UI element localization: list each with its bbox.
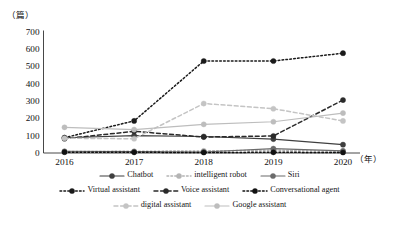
x-axis-tick-labels: 20162017201820192020 — [55, 157, 352, 167]
legend-label: Conversational agent — [270, 186, 339, 194]
data-point — [201, 58, 206, 63]
legend-label: digital assistant — [141, 201, 192, 209]
y-axis-tick-labels: 0100200300400500600700 — [26, 27, 40, 159]
data-point — [201, 134, 206, 139]
legend-label: Voice assistant — [181, 186, 229, 194]
chart-figure: （篇） （年） 0100200300400500600700 201620172… — [0, 0, 399, 227]
legend-swatch-icon — [242, 186, 268, 196]
legend-swatch-icon — [260, 171, 286, 181]
legend-item-digital-assistant[interactable]: digital assistant — [113, 201, 192, 211]
data-point — [271, 150, 276, 155]
legend-swatch-icon — [166, 171, 192, 181]
data-point — [340, 51, 345, 56]
data-point — [62, 125, 67, 130]
data-point — [340, 118, 345, 123]
data-point — [132, 150, 137, 155]
data-point — [271, 119, 276, 124]
y-tick-0: 0 — [35, 148, 40, 158]
data-point — [271, 106, 276, 111]
data-point — [340, 97, 345, 102]
data-point — [62, 136, 67, 141]
data-point — [340, 150, 345, 155]
y-tick-300: 300 — [26, 96, 40, 106]
legend-label: Virtual assistant — [87, 186, 140, 194]
x-tick-2018: 2018 — [195, 157, 214, 167]
x-tick-2016: 2016 — [55, 157, 74, 167]
data-point — [201, 122, 206, 127]
legend-swatch-icon — [113, 201, 139, 211]
legend-label: Siri — [288, 171, 300, 179]
data-point — [132, 136, 137, 141]
legend-item-google-assistant[interactable]: Google assistant — [204, 201, 286, 211]
data-point — [62, 150, 67, 155]
legend-row-1: Chatbotintelligent robotSiri — [0, 168, 399, 183]
data-point — [201, 101, 206, 106]
legend-item-voice-assistant[interactable]: Voice assistant — [153, 186, 229, 196]
x-tick-2017: 2017 — [125, 157, 144, 167]
data-point — [132, 127, 137, 132]
data-series-group — [62, 51, 346, 155]
y-tick-400: 400 — [26, 79, 40, 89]
legend-swatch-icon — [59, 186, 85, 196]
chart-legend: Chatbotintelligent robotSiriVirtual assi… — [0, 168, 399, 213]
legend-item-chatbot[interactable]: Chatbot — [99, 171, 153, 181]
y-tick-700: 700 — [26, 27, 40, 37]
x-tick-2020: 2020 — [334, 157, 353, 167]
y-tick-500: 500 — [26, 61, 40, 71]
legend-label: intelligent robot — [194, 171, 247, 179]
legend-label: Google assistant — [232, 201, 286, 209]
data-point — [271, 58, 276, 63]
y-tick-600: 600 — [26, 44, 40, 54]
data-point — [271, 133, 276, 138]
legend-swatch-icon — [204, 201, 230, 211]
y-tick-200: 200 — [26, 113, 40, 123]
data-point — [132, 118, 137, 123]
legend-swatch-icon — [99, 171, 125, 181]
legend-row-2: Virtual assistantVoice assistantConversa… — [0, 183, 399, 198]
legend-row-3: digital assistantGoogle assistant — [0, 198, 399, 213]
data-point — [340, 142, 345, 147]
x-tick-2019: 2019 — [264, 157, 283, 167]
y-tick-100: 100 — [26, 131, 40, 141]
legend-item-conversational-agent[interactable]: Conversational agent — [242, 186, 339, 196]
legend-item-intelligent-robot[interactable]: intelligent robot — [166, 171, 247, 181]
legend-item-siri[interactable]: Siri — [260, 171, 300, 181]
data-point — [201, 150, 206, 155]
legend-swatch-icon — [153, 186, 179, 196]
legend-label: Chatbot — [127, 171, 153, 179]
legend-item-virtual-assistant[interactable]: Virtual assistant — [59, 186, 140, 196]
data-point — [340, 110, 345, 115]
